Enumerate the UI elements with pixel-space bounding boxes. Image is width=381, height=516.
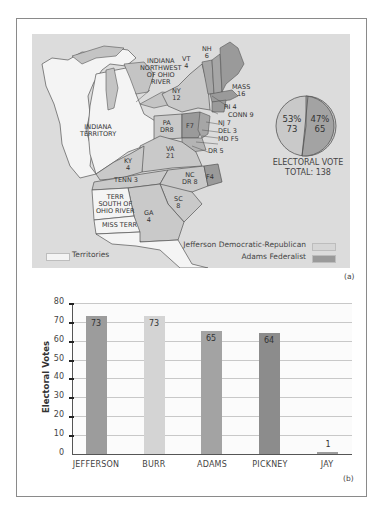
label-tenn: TENN 3: [114, 177, 138, 184]
label-miss-terr: MISS TERR: [102, 222, 137, 229]
label-line: 4: [182, 63, 190, 70]
pie-left-votes: 73: [278, 124, 306, 134]
label-va: VA 21: [166, 146, 174, 160]
label-nj: NJ 7: [218, 120, 231, 127]
label-md: MD F5: [218, 136, 239, 143]
legend-adams: Adams Federalist: [241, 252, 306, 261]
label-line: TERRITORY: [80, 131, 116, 138]
label-nh: NH 6: [202, 46, 212, 60]
pie-right-pct: 47%: [306, 114, 334, 124]
label-nc: NC DR 8: [182, 172, 198, 186]
legend-jefferson: Jefferson Democratic-Republican: [183, 240, 306, 249]
label-vt: VT 4: [182, 56, 190, 70]
pie-right-text: 47% 65: [306, 114, 334, 134]
label-mass: MASS 16: [232, 84, 250, 98]
pie-right-votes: 65: [306, 124, 334, 134]
panel-label-a: (a): [344, 272, 354, 281]
electoral-vote-title: ELECTORAL VOTE TOTAL: 138: [248, 158, 350, 178]
legend-swatch-territories: [46, 253, 70, 261]
ev-title-line2: TOTAL: 138: [248, 168, 350, 178]
label-nc-federalist: F4: [206, 174, 214, 181]
ev-title-line1: ELECTORAL VOTE: [248, 158, 350, 168]
legend-territories: Territories: [72, 250, 109, 259]
label-line: 16: [232, 91, 250, 98]
label-ri: RI 4: [224, 104, 237, 111]
label-ky: KY 4: [124, 158, 132, 172]
label-indiana-northwest: INDIANA NORTHWEST OF OHIO RIVER: [140, 58, 182, 86]
label-line: 6: [202, 53, 212, 60]
panel-label-b: (b): [343, 474, 354, 483]
pie-left-text: 53% 73: [278, 114, 306, 134]
label-ny: NY 12: [172, 88, 181, 102]
label-md-dr: DR 5: [208, 148, 224, 155]
label-indiana-territory: INDIANA TERRITORY: [80, 124, 116, 138]
legend-swatch-jefferson: [312, 243, 336, 251]
label-line: 8: [174, 203, 183, 210]
label-line: 12: [172, 95, 181, 102]
label-line: 21: [166, 153, 174, 160]
label-pa: PA DR8: [160, 120, 174, 134]
label-line: RIVER: [140, 79, 182, 86]
label-line: OHIO RIVER: [96, 208, 135, 215]
election-map-panel: INDIANA NORTHWEST OF OHIO RIVER INDIANA …: [32, 34, 350, 268]
label-pa-federalist: F7: [186, 123, 194, 130]
electoral-vote-pie: 53% 73 47% 65: [274, 94, 338, 158]
label-line: 4: [144, 217, 153, 224]
label-conn: CONN 9: [228, 112, 254, 119]
label-line: DR 8: [182, 179, 198, 186]
label-line: DR8: [160, 127, 174, 134]
label-sc: SC 8: [174, 196, 183, 210]
label-line: 4: [124, 165, 132, 172]
label-del: DEL 3: [218, 128, 237, 135]
label-terr-south-ohio: TERR SOUTH OF OHIO RIVER: [96, 194, 135, 215]
legend-swatch-adams: [312, 255, 336, 263]
label-ga: GA 4: [144, 210, 153, 224]
pie-left-pct: 53%: [278, 114, 306, 124]
